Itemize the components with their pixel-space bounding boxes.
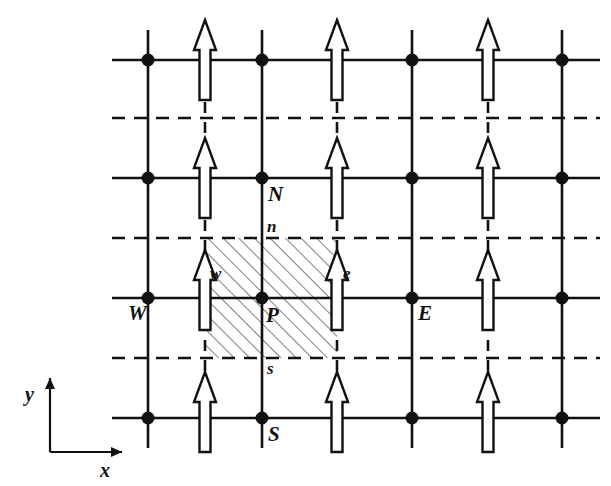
- figure-canvas: N S E W P n s e w x y: [0, 0, 611, 486]
- axis-y-arrowhead: [45, 378, 55, 389]
- label-face-n: n: [267, 218, 276, 235]
- grid-node-1-1: [256, 172, 269, 185]
- label-node-west: W: [128, 303, 147, 324]
- staggered-grid-diagram: [0, 0, 611, 486]
- coordinate-axes: [45, 378, 122, 457]
- control-volume-boundaries: [112, 102, 600, 376]
- label-node-p: P: [266, 305, 279, 326]
- grid-node-3-3: [556, 412, 569, 425]
- grid-node-0-0: [142, 54, 155, 67]
- grid-node-0-1: [142, 172, 155, 185]
- label-node-east: E: [418, 303, 432, 324]
- grid-node-2-1: [406, 172, 419, 185]
- label-node-south: S: [268, 424, 280, 445]
- velocity-arrow-9: [194, 372, 216, 452]
- velocity-arrow-11: [477, 372, 499, 452]
- grid-node-2-0: [406, 54, 419, 67]
- grid-node-3-1: [556, 172, 569, 185]
- velocity-arrow-10: [326, 372, 348, 452]
- label-face-s: s: [267, 360, 274, 377]
- grid-node-1-3: [256, 412, 269, 425]
- grid-node-3-2: [556, 292, 569, 305]
- label-face-w: w: [210, 265, 221, 282]
- velocity-arrows: [194, 20, 499, 452]
- velocity-arrow-8: [477, 250, 499, 330]
- axis-x-arrowhead: [111, 447, 122, 457]
- label-axis-x: x: [100, 460, 110, 480]
- grid-node-3-0: [556, 54, 569, 67]
- label-face-e: e: [343, 265, 351, 282]
- grid-node-1-0: [256, 54, 269, 67]
- grid-node-2-2: [406, 292, 419, 305]
- label-node-north: N: [268, 184, 283, 205]
- grid-node-2-3: [406, 412, 419, 425]
- grid-node-0-3: [142, 412, 155, 425]
- label-axis-y: y: [25, 384, 34, 404]
